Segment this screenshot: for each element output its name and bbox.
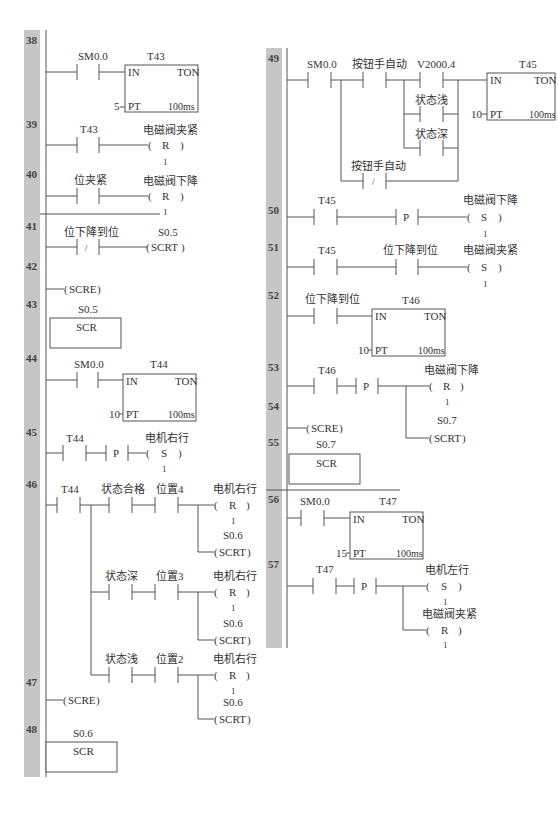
svg-text:): )	[246, 586, 250, 599]
svg-text:45: 45	[26, 426, 38, 438]
svg-text:): )	[458, 580, 462, 593]
svg-text:PT: PT	[353, 547, 366, 559]
svg-text:P: P	[403, 211, 409, 223]
svg-text:1: 1	[445, 397, 450, 407]
svg-text:SCR: SCR	[316, 457, 337, 469]
svg-text:1: 1	[163, 207, 168, 217]
svg-text:1: 1	[483, 279, 488, 289]
svg-text:46: 46	[26, 478, 38, 490]
svg-text:SCRT: SCRT	[151, 241, 178, 253]
svg-text:10: 10	[358, 344, 370, 356]
svg-text:(: (	[214, 713, 218, 726]
svg-text:50: 50	[268, 204, 280, 216]
svg-text:位下降到位: 位下降到位	[305, 292, 360, 305]
svg-text:状态深: 状态深	[415, 127, 448, 140]
svg-text:按钮手自动: 按钮手自动	[351, 159, 406, 172]
svg-text:56: 56	[268, 493, 280, 505]
network-52: 52 位下降到位 T46 IN TON PT 100ms 10	[268, 289, 446, 356]
svg-text:T45: T45	[318, 244, 336, 256]
svg-text:R: R	[162, 139, 170, 151]
network-38: 38 SM0.0 T43 IN TON PT 100ms 5	[26, 34, 199, 112]
svg-text:SCRE: SCRE	[68, 694, 96, 706]
svg-text:IN: IN	[490, 74, 502, 86]
svg-text:P: P	[113, 447, 119, 459]
svg-text:状态浅: 状态浅	[415, 93, 448, 106]
svg-text:(: (	[148, 190, 152, 203]
svg-text:1: 1	[163, 157, 168, 167]
timer-name: T43	[147, 50, 165, 62]
svg-text:/: /	[85, 243, 88, 253]
svg-text:S0.6: S0.6	[73, 727, 93, 739]
svg-text:39: 39	[26, 118, 38, 130]
svg-text:SCRE: SCRE	[69, 283, 97, 295]
svg-text:S0.6: S0.6	[223, 696, 243, 708]
svg-text:位夹紧: 位夹紧	[74, 173, 107, 186]
svg-text:): )	[247, 713, 251, 726]
svg-text:(: (	[214, 669, 218, 682]
svg-text:53: 53	[268, 361, 280, 373]
svg-text:S0.7: S0.7	[437, 414, 457, 426]
svg-text:T44: T44	[150, 358, 168, 370]
svg-text:54: 54	[268, 400, 280, 412]
svg-text:10: 10	[109, 408, 121, 420]
svg-text:位下降到位: 位下降到位	[383, 243, 438, 256]
svg-text:V2000.4: V2000.4	[417, 58, 456, 70]
svg-text:P: P	[363, 380, 369, 392]
contact-label: SM0.0	[78, 50, 108, 62]
svg-text:57: 57	[268, 558, 280, 570]
svg-text:47: 47	[26, 676, 38, 688]
svg-text:): )	[246, 499, 250, 512]
svg-text:): )	[247, 546, 251, 559]
svg-text:): )	[339, 422, 343, 435]
svg-text:SM0.0: SM0.0	[307, 58, 337, 70]
svg-text:TON: TON	[424, 310, 446, 322]
svg-text:(: (	[148, 139, 152, 152]
svg-text:IN: IN	[353, 513, 365, 525]
svg-text:1: 1	[162, 464, 167, 474]
svg-text:位置2: 位置2	[156, 652, 184, 665]
svg-text:IN: IN	[126, 375, 138, 387]
svg-text:SM0.0: SM0.0	[300, 495, 330, 507]
svg-text:电机右行: 电机右行	[213, 482, 257, 495]
svg-text:(: (	[426, 624, 430, 637]
network-44: 44 SM0.0 T44 IN TON PT 100ms 10	[26, 352, 197, 421]
svg-text:T43: T43	[80, 123, 98, 135]
svg-text:100ms: 100ms	[418, 345, 445, 356]
svg-text:1: 1	[443, 640, 448, 650]
svg-text:SCRE: SCRE	[311, 422, 339, 434]
svg-text:41: 41	[26, 220, 37, 232]
svg-text:1: 1	[231, 603, 236, 613]
network-43: 43 S0.5 SCR	[26, 298, 121, 348]
svg-text:T46: T46	[402, 294, 420, 306]
svg-text:1: 1	[443, 597, 448, 607]
svg-text:5: 5	[114, 100, 120, 112]
svg-text:S: S	[441, 580, 447, 592]
svg-text:PT: PT	[128, 100, 141, 112]
svg-text:电磁阀下降: 电磁阀下降	[143, 174, 198, 187]
svg-text:100ms: 100ms	[168, 101, 195, 112]
svg-text:IN: IN	[375, 310, 387, 322]
svg-text:(: (	[146, 447, 150, 460]
svg-text:51: 51	[268, 241, 279, 253]
svg-text:): )	[462, 432, 466, 445]
svg-text:SCR: SCR	[76, 321, 97, 333]
svg-text:52: 52	[268, 289, 280, 301]
svg-text:R: R	[441, 624, 449, 636]
svg-text:): )	[247, 634, 251, 647]
svg-text:电机右行: 电机右行	[213, 569, 257, 582]
svg-text:电机右行: 电机右行	[213, 652, 257, 665]
svg-text:SCRT: SCRT	[219, 546, 246, 558]
svg-text:(: (	[214, 546, 218, 559]
svg-text:(: (	[214, 634, 218, 647]
svg-text:(: (	[429, 432, 433, 445]
svg-text:): )	[246, 669, 250, 682]
network-41: 41 位下降到位 / S0.5 (SCRT)	[26, 220, 185, 255]
network-51: 51 T45 位下降到位 电磁阀夹紧 (S) 1	[268, 241, 518, 289]
network-53: 53 T46 P 电磁阀下降 (R) 1 S0.7 (SCRT)	[268, 361, 479, 445]
svg-text:10: 10	[471, 108, 483, 120]
svg-text:R: R	[229, 499, 237, 511]
svg-text:): )	[97, 283, 101, 296]
svg-text:): )	[498, 261, 502, 274]
svg-text:S: S	[481, 211, 487, 223]
svg-text:R: R	[162, 190, 170, 202]
